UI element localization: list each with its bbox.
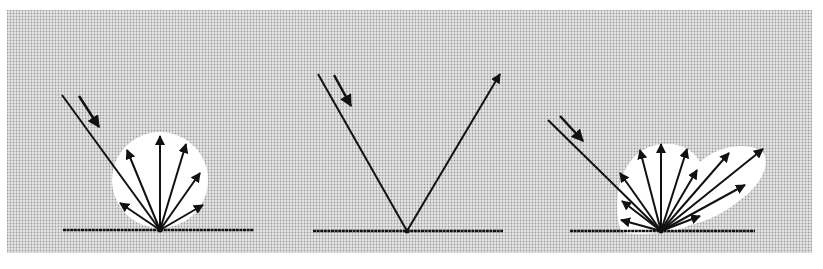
reflection-diagram	[0, 0, 823, 269]
incidence-point	[158, 228, 163, 233]
reflection-figure	[0, 0, 823, 269]
incidence-point	[659, 229, 664, 234]
incidence-point	[405, 229, 410, 234]
